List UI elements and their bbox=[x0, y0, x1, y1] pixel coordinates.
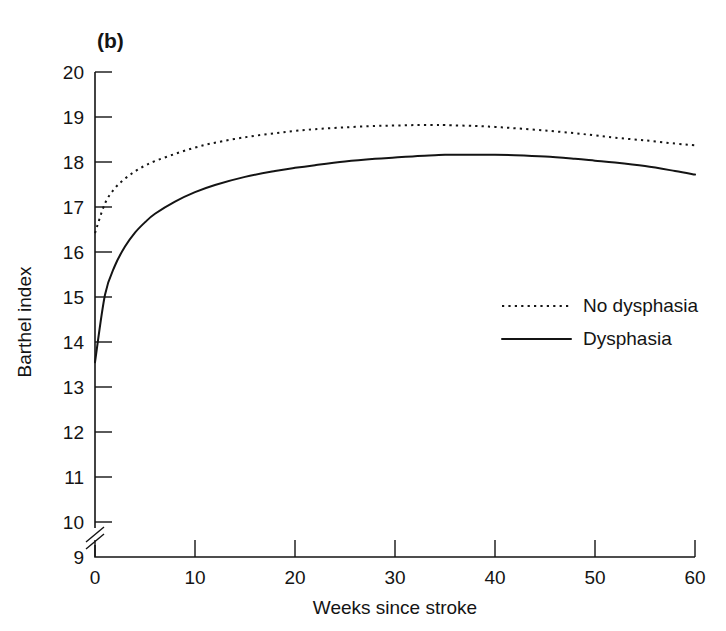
legend-label-no-dysphasia: No dysphasia bbox=[583, 295, 699, 316]
y-axis-title: Barthel index bbox=[14, 266, 35, 377]
y-tick-label: 17 bbox=[63, 197, 84, 218]
barthel-index-chart: (b) 91011121314151617181920 010203040506… bbox=[0, 0, 726, 631]
x-tick-label: 10 bbox=[184, 567, 205, 588]
y-tick-label: 12 bbox=[63, 422, 84, 443]
y-tick-label: 19 bbox=[63, 107, 84, 128]
y-tick-label: 10 bbox=[63, 512, 84, 533]
y-tick-label: 18 bbox=[63, 152, 84, 173]
x-tick-label: 60 bbox=[684, 567, 705, 588]
y-tick-label: 11 bbox=[64, 467, 84, 488]
legend-label-dysphasia: Dysphasia bbox=[583, 328, 672, 349]
x-tick-label: 30 bbox=[384, 567, 405, 588]
y-tick-label: 16 bbox=[63, 242, 84, 263]
y-tick-label: 20 bbox=[63, 62, 84, 83]
x-tick-label: 0 bbox=[90, 567, 101, 588]
x-tick-label: 20 bbox=[284, 567, 305, 588]
x-tick-label: 40 bbox=[484, 567, 505, 588]
x-tick-label: 50 bbox=[584, 567, 605, 588]
panel-label: (b) bbox=[97, 29, 124, 52]
y-tick-label: 14 bbox=[63, 332, 85, 353]
y-tick-label: 15 bbox=[63, 287, 84, 308]
y-tick-label: 13 bbox=[63, 377, 84, 398]
x-axis-title: Weeks since stroke bbox=[313, 597, 477, 618]
y-tick-label: 9 bbox=[73, 547, 84, 568]
